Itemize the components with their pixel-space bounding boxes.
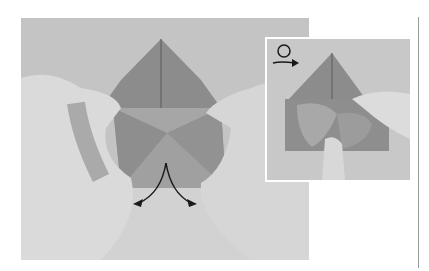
inset-photo	[265, 37, 412, 182]
page-divider-rule	[418, 17, 419, 268]
